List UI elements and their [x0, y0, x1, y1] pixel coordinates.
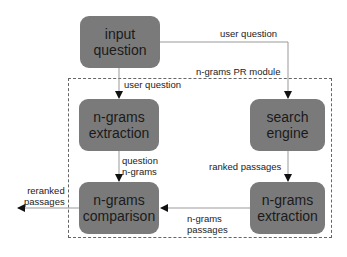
node-line: question [94, 42, 147, 58]
node-ngrams-extraction-left: n-grams extraction [79, 99, 159, 151]
module-label: n-grams PR module [196, 66, 280, 77]
node-line: search [266, 109, 308, 125]
label-line: n-grams [187, 213, 228, 224]
node-line: n-grams [93, 192, 144, 208]
label-line: reranked [24, 185, 65, 196]
node-search-engine: search engine [250, 99, 325, 151]
edge-label-user-question-left: user question [124, 79, 181, 90]
label-line: passages [24, 196, 65, 207]
node-line: engine [266, 125, 308, 141]
node-line: n-grams [93, 109, 144, 125]
node-line: input [105, 26, 135, 42]
node-line: comparison [83, 208, 155, 224]
edge-label-user-question-top: user question [220, 28, 277, 39]
node-line: extraction [257, 208, 318, 224]
node-ngrams-comparison: n-grams comparison [79, 182, 159, 234]
edge-label-reranked-passages: reranked passages [24, 185, 65, 207]
label-line: question [122, 155, 158, 166]
label-line: passages [187, 224, 228, 235]
node-input-question: input question [80, 16, 160, 68]
node-line: extraction [89, 125, 150, 141]
edge-label-question-ngrams: question n-grams [122, 155, 158, 177]
node-line: n-grams [262, 192, 313, 208]
node-ngrams-extraction-right: n-grams extraction [250, 182, 325, 234]
edge-label-ngrams-passages: n-grams passages [187, 213, 228, 235]
label-line: n-grams [122, 166, 158, 177]
edge-label-ranked-passages: ranked passages [209, 161, 281, 172]
